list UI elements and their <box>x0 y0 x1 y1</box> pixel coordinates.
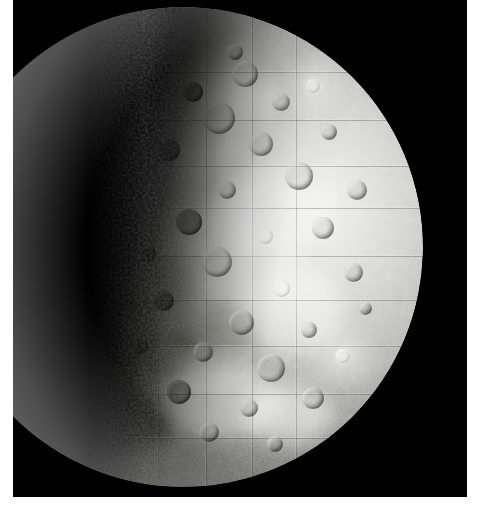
photographic-plate <box>13 0 467 497</box>
limb-edge-falloff <box>13 7 423 487</box>
image-canvas <box>0 0 485 512</box>
planet-disc <box>13 7 423 487</box>
